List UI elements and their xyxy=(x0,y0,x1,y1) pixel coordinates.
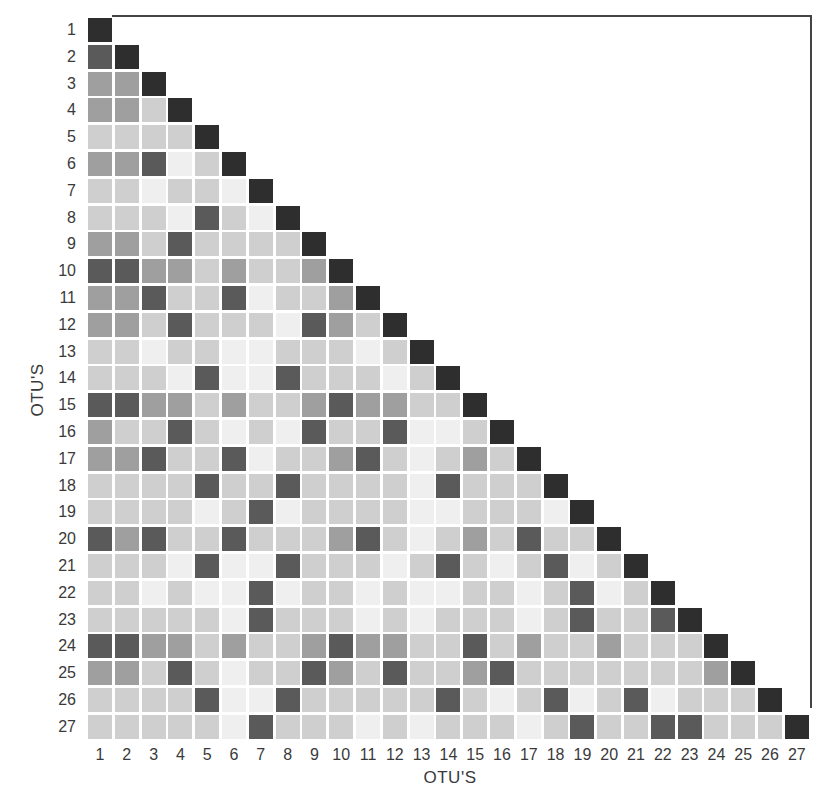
heatmap-cell xyxy=(88,18,112,42)
heatmap-cell xyxy=(436,420,460,444)
heatmap-cell xyxy=(329,474,353,498)
heatmap-cell xyxy=(222,259,246,283)
heatmap-cell xyxy=(410,581,434,605)
heatmap-cell xyxy=(302,366,326,390)
heatmap-cell xyxy=(142,581,166,605)
heatmap-cell xyxy=(436,474,460,498)
x-tick-label: 13 xyxy=(408,746,436,764)
heatmap-cell xyxy=(115,554,139,578)
heatmap-cell xyxy=(115,286,139,310)
y-tick-label: 26 xyxy=(36,688,76,712)
heatmap-cell xyxy=(88,500,112,524)
heatmap-cell xyxy=(383,393,407,417)
heatmap-cell xyxy=(383,527,407,551)
heatmap-cell xyxy=(195,179,219,203)
heatmap-cell xyxy=(410,554,434,578)
heatmap-cell xyxy=(249,500,273,524)
x-tick-label: 6 xyxy=(220,746,248,764)
heatmap-cell xyxy=(249,206,273,230)
heatmap-cell xyxy=(463,554,487,578)
heatmap-cell xyxy=(383,688,407,712)
heatmap-cell xyxy=(88,152,112,176)
heatmap-cell xyxy=(142,232,166,256)
heatmap-cell xyxy=(302,715,326,739)
heatmap-cell xyxy=(168,661,192,685)
y-tick-label: 7 xyxy=(36,179,76,203)
heatmap-cell xyxy=(142,634,166,658)
heatmap-cell xyxy=(115,125,139,149)
y-tick-label: 27 xyxy=(36,715,76,739)
heatmap-cell xyxy=(517,688,541,712)
heatmap-cell xyxy=(490,554,514,578)
y-tick-label: 19 xyxy=(36,500,76,524)
heatmap-cell xyxy=(222,340,246,364)
heatmap-cell xyxy=(356,527,380,551)
heatmap-cell xyxy=(168,340,192,364)
heatmap-cell xyxy=(195,634,219,658)
heatmap-cell xyxy=(249,447,273,471)
heatmap-cell xyxy=(168,125,192,149)
heatmap-cell xyxy=(329,259,353,283)
heatmap-cell xyxy=(597,554,621,578)
heatmap-cell xyxy=(544,500,568,524)
heatmap-cell xyxy=(302,286,326,310)
heatmap-cell xyxy=(651,661,675,685)
heatmap-cell xyxy=(436,715,460,739)
heatmap-cell xyxy=(570,500,594,524)
heatmap-cell xyxy=(356,715,380,739)
heatmap-cell xyxy=(222,206,246,230)
heatmap-cell xyxy=(597,634,621,658)
heatmap-cell xyxy=(410,715,434,739)
x-tick-label: 16 xyxy=(488,746,516,764)
heatmap-cell xyxy=(276,474,300,498)
x-tick-label: 14 xyxy=(434,746,462,764)
heatmap-cell xyxy=(678,661,702,685)
heatmap-cell xyxy=(115,474,139,498)
heatmap-cell xyxy=(222,474,246,498)
heatmap-cell xyxy=(115,715,139,739)
heatmap-cell xyxy=(463,527,487,551)
heatmap-cell xyxy=(463,474,487,498)
heatmap-cell xyxy=(383,340,407,364)
heatmap-cell xyxy=(168,554,192,578)
heatmap-cell xyxy=(436,608,460,632)
heatmap-cell xyxy=(276,393,300,417)
heatmap-cell xyxy=(356,393,380,417)
heatmap-cell xyxy=(88,206,112,230)
heatmap-cell xyxy=(249,715,273,739)
heatmap-cell xyxy=(544,608,568,632)
x-tick-label: 12 xyxy=(381,746,409,764)
heatmap-cell xyxy=(222,688,246,712)
x-tick-label: 4 xyxy=(166,746,194,764)
heatmap-cell xyxy=(115,500,139,524)
heatmap-cell xyxy=(678,715,702,739)
heatmap-cell xyxy=(329,366,353,390)
heatmap-cell xyxy=(142,340,166,364)
heatmap-cell xyxy=(142,152,166,176)
heatmap-cell xyxy=(410,340,434,364)
heatmap-cell xyxy=(142,420,166,444)
heatmap-cell xyxy=(168,634,192,658)
heatmap-cell xyxy=(88,179,112,203)
heatmap-cell xyxy=(302,313,326,337)
heatmap-cell xyxy=(678,608,702,632)
heatmap-cell xyxy=(168,527,192,551)
heatmap-cell xyxy=(168,286,192,310)
heatmap-cell xyxy=(517,554,541,578)
heatmap-cell xyxy=(517,527,541,551)
heatmap-cell xyxy=(142,179,166,203)
heatmap-cell xyxy=(383,634,407,658)
heatmap-cell xyxy=(570,554,594,578)
y-tick-label: 22 xyxy=(36,581,76,605)
heatmap-cell xyxy=(570,527,594,551)
heatmap-cell xyxy=(329,447,353,471)
heatmap-cell xyxy=(651,608,675,632)
x-tick-label: 8 xyxy=(274,746,302,764)
heatmap-cell xyxy=(142,313,166,337)
x-tick-label: 2 xyxy=(113,746,141,764)
heatmap-cell xyxy=(142,259,166,283)
heatmap-cell xyxy=(570,661,594,685)
heatmap-cell xyxy=(490,500,514,524)
heatmap-cell xyxy=(463,634,487,658)
heatmap-cell xyxy=(436,554,460,578)
